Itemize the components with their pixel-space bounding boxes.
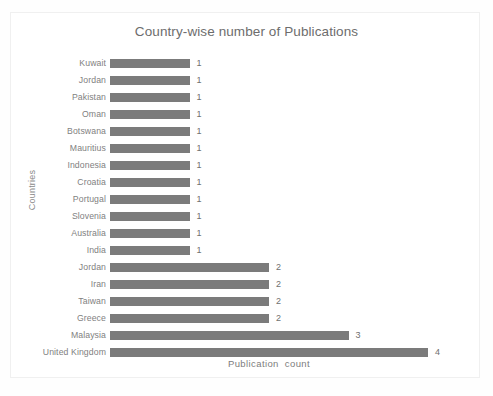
bar xyxy=(110,212,190,221)
category-label: Indonesia xyxy=(0,157,106,174)
bar-value-label: 2 xyxy=(276,259,281,276)
bar xyxy=(110,331,349,340)
bar xyxy=(110,144,190,153)
category-label: Taiwan xyxy=(0,293,106,310)
bar-row: Iran2 xyxy=(0,276,493,293)
bar xyxy=(110,263,269,272)
bar xyxy=(110,110,190,119)
category-label: Portugal xyxy=(0,191,106,208)
bar-row: Mauritius1 xyxy=(0,140,493,157)
bar-row: Oman1 xyxy=(0,106,493,123)
bar-row: Portugal1 xyxy=(0,191,493,208)
bar-row: Malaysia3 xyxy=(0,327,493,344)
bar-value-label: 1 xyxy=(197,242,202,259)
bar-row: Jordan2 xyxy=(0,259,493,276)
bar xyxy=(110,280,269,289)
bar-value-label: 1 xyxy=(197,55,202,72)
bar xyxy=(110,348,428,357)
bar xyxy=(110,314,269,323)
bar xyxy=(110,246,190,255)
category-label: Jordan xyxy=(0,259,106,276)
category-label: Malaysia xyxy=(0,327,106,344)
bar xyxy=(110,195,190,204)
category-label: Oman xyxy=(0,106,106,123)
bar xyxy=(110,297,269,306)
bar-value-label: 1 xyxy=(197,123,202,140)
bar xyxy=(110,127,190,136)
bar-value-label: 2 xyxy=(276,293,281,310)
category-label: Pakistan xyxy=(0,89,106,106)
bar-value-label: 1 xyxy=(197,72,202,89)
category-label: India xyxy=(0,242,106,259)
bar-value-label: 1 xyxy=(197,208,202,225)
bar-row: Pakistan1 xyxy=(0,89,493,106)
bar-row: Botswana1 xyxy=(0,123,493,140)
bar xyxy=(110,76,190,85)
category-label: Mauritius xyxy=(0,140,106,157)
bar xyxy=(110,229,190,238)
category-label: Kuwait xyxy=(0,55,106,72)
bar xyxy=(110,93,190,102)
category-label: Iran xyxy=(0,276,106,293)
bar-value-label: 1 xyxy=(197,157,202,174)
category-label: Australia xyxy=(0,225,106,242)
bar-row: Indonesia1 xyxy=(0,157,493,174)
bar-row: Slovenia1 xyxy=(0,208,493,225)
bar-value-label: 3 xyxy=(356,327,361,344)
category-label: United Kingdom xyxy=(0,344,106,361)
bar xyxy=(110,161,190,170)
bar-value-label: 1 xyxy=(197,174,202,191)
bar-value-label: 2 xyxy=(276,276,281,293)
bar-row: Greece2 xyxy=(0,310,493,327)
category-label: Slovenia xyxy=(0,208,106,225)
category-label: Jordan xyxy=(0,72,106,89)
bar xyxy=(110,178,190,187)
bar-row: India1 xyxy=(0,242,493,259)
bar-value-label: 1 xyxy=(197,140,202,157)
bar xyxy=(110,59,190,68)
bar-value-label: 4 xyxy=(435,344,440,361)
category-label: Botswana xyxy=(0,123,106,140)
bar-row: Taiwan2 xyxy=(0,293,493,310)
scanned-figure-page: Country-wise number of Publications Coun… xyxy=(0,0,493,396)
category-label: Croatia xyxy=(0,174,106,191)
plot-area: Kuwait1Jordan1Pakistan1Oman1Botswana1Mau… xyxy=(0,0,493,396)
bar-value-label: 1 xyxy=(197,106,202,123)
bar-row: Jordan1 xyxy=(0,72,493,89)
bar-row: Kuwait1 xyxy=(0,55,493,72)
bar-row: Croatia1 xyxy=(0,174,493,191)
bar-value-label: 2 xyxy=(276,310,281,327)
bar-value-label: 1 xyxy=(197,191,202,208)
bar-row: Australia1 xyxy=(0,225,493,242)
bar-value-label: 1 xyxy=(197,225,202,242)
bar-value-label: 1 xyxy=(197,89,202,106)
category-label: Greece xyxy=(0,310,106,327)
x-axis-label: Publication count xyxy=(110,358,428,369)
